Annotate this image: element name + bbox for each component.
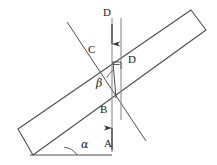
label-ray-emergent: C: [88, 44, 95, 55]
label-normal-mid: D: [128, 54, 136, 65]
label-ray-inside: B: [100, 104, 107, 115]
ray-diagram-figure: D C D β B A α: [0, 0, 217, 165]
label-angle-beta: β: [96, 78, 102, 89]
label-angle-alpha: α: [81, 139, 88, 150]
label-ray-incident: A: [104, 138, 112, 149]
angle-alpha-arc: [64, 147, 77, 155]
label-normal-top: D: [103, 7, 111, 18]
